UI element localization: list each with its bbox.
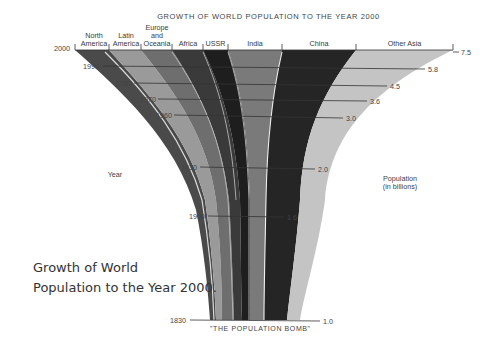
year-label-1970: 1970 bbox=[116, 95, 156, 104]
pop-label-3-6: 3.6 bbox=[370, 97, 380, 106]
pop-label-4-5: 4.5 bbox=[390, 82, 400, 91]
year-label-2000: 2000 bbox=[30, 44, 70, 53]
year-axis-title: Year bbox=[100, 170, 130, 179]
pop-label-5-8: 5.8 bbox=[428, 65, 438, 74]
pop-label-1-6: 1.6 bbox=[287, 213, 297, 222]
pop-label-1-0: 1.0 bbox=[323, 317, 333, 326]
caption: Growth of World Population to the Year 2… bbox=[33, 258, 217, 298]
year-label-1990: 1990 bbox=[59, 62, 99, 71]
population-axis-title: Population (in billions) bbox=[375, 175, 425, 191]
pop-label-2-0: 2.0 bbox=[318, 165, 328, 174]
year-label-1830: 1830 bbox=[146, 316, 186, 325]
caption-line-1: Growth of World bbox=[33, 258, 217, 278]
pop-label-7-5: 7.5 bbox=[461, 48, 471, 57]
year-label-1900: 1900 bbox=[165, 212, 205, 221]
population-axis-title-line: (in billions) bbox=[375, 183, 425, 191]
year-label-1960: 1960 bbox=[132, 111, 172, 120]
year-label-1930: 1930 bbox=[157, 163, 197, 172]
population-bomb-subtitle: "THE POPULATION BOMB" bbox=[210, 325, 311, 332]
year-label-1980: 1980 bbox=[92, 79, 132, 88]
caption-line-2: Population to the Year 2000. bbox=[33, 278, 217, 298]
pop-label-3-0: 3.0 bbox=[346, 114, 356, 123]
